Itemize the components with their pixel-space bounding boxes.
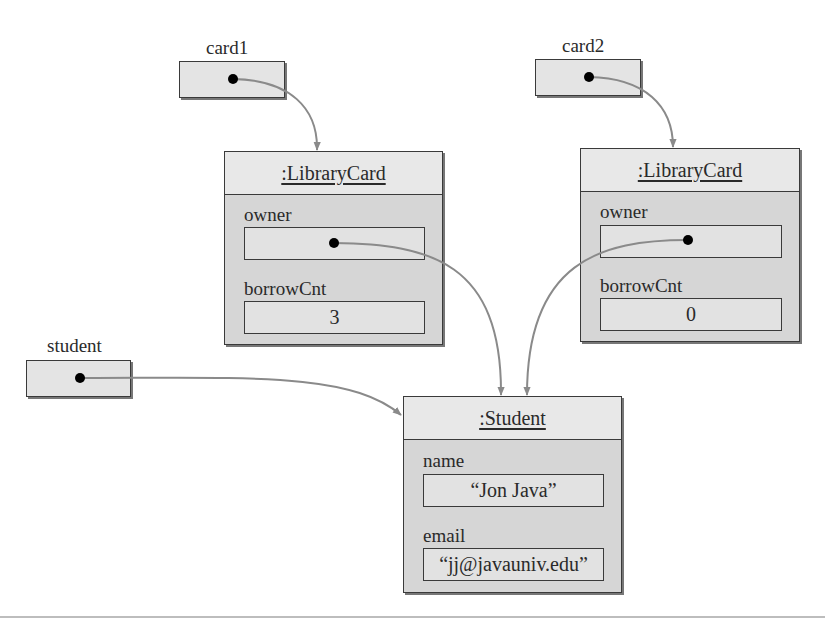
student-object[interactable]: :Student name “Jon Java” email “jj@javau… [403,396,622,593]
variable-label-card2: card2 [562,36,604,56]
variable-label-student: student [47,336,102,356]
object-title: :LibraryCard [638,159,742,182]
object-title: :Student [479,407,546,430]
bottom-divider [0,616,825,618]
variable-box-card1[interactable] [179,61,285,98]
librarycard-object-2[interactable]: :LibraryCard owner borrowCnt 0 [580,148,800,342]
object-header: :Student [404,397,621,440]
variable-label-card1: card1 [206,38,248,58]
attribute-name-owner: owner [600,201,647,223]
attribute-name-owner: owner [244,204,291,226]
attribute-value-owner [600,225,782,258]
attribute-value-borrowcnt: 0 [600,298,782,331]
attribute-value-owner [244,227,425,260]
attribute-name-borrowcnt: borrowCnt [244,278,326,300]
variable-box-student[interactable] [26,360,131,397]
object-header: :LibraryCard [225,152,442,195]
attribute-name-email: email [423,525,465,547]
attribute-value-name: “Jon Java” [423,474,604,507]
attribute-value-email: “jj@javauniv.edu” [423,548,604,581]
attribute-value-borrowcnt: 3 [244,301,425,334]
attribute-name-borrowcnt: borrowCnt [600,275,682,297]
object-header: :LibraryCard [581,149,799,192]
object-title: :LibraryCard [281,162,385,185]
librarycard-object-1[interactable]: :LibraryCard owner borrowCnt 3 [224,151,443,345]
attribute-name-name: name [423,450,464,472]
variable-box-card2[interactable] [535,59,641,96]
